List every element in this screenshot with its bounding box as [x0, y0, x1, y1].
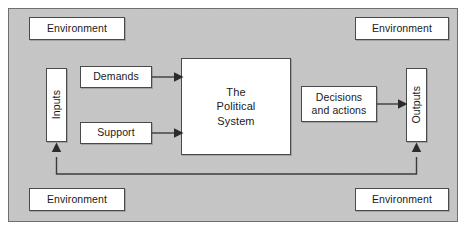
political-system-line-3: System	[217, 114, 256, 128]
inputs-box: Inputs	[46, 68, 67, 142]
political-system-figure: Environment Environment Environment Envi…	[0, 0, 475, 231]
environment-box-bottom-right: Environment	[355, 188, 449, 211]
support-box: Support	[80, 122, 152, 144]
outputs-label: Outputs	[411, 86, 423, 123]
environment-box-bottom-left: Environment	[29, 188, 125, 211]
political-system-line-2: Political	[217, 99, 256, 113]
political-system-box: The Political System	[181, 58, 291, 155]
decisions-line-1: Decisions	[312, 91, 367, 104]
demands-box: Demands	[80, 66, 152, 88]
outputs-box: Outputs	[406, 68, 427, 142]
environment-box-top-left: Environment	[29, 17, 125, 40]
decisions-and-actions-label: Decisions and actions	[312, 91, 367, 117]
decisions-and-actions-box: Decisions and actions	[301, 86, 377, 122]
political-system-line-1: The	[217, 85, 256, 99]
political-system-label: The Political System	[217, 85, 256, 128]
decisions-line-2: and actions	[312, 104, 367, 117]
inputs-label: Inputs	[51, 90, 63, 119]
environment-box-top-right: Environment	[355, 17, 449, 40]
